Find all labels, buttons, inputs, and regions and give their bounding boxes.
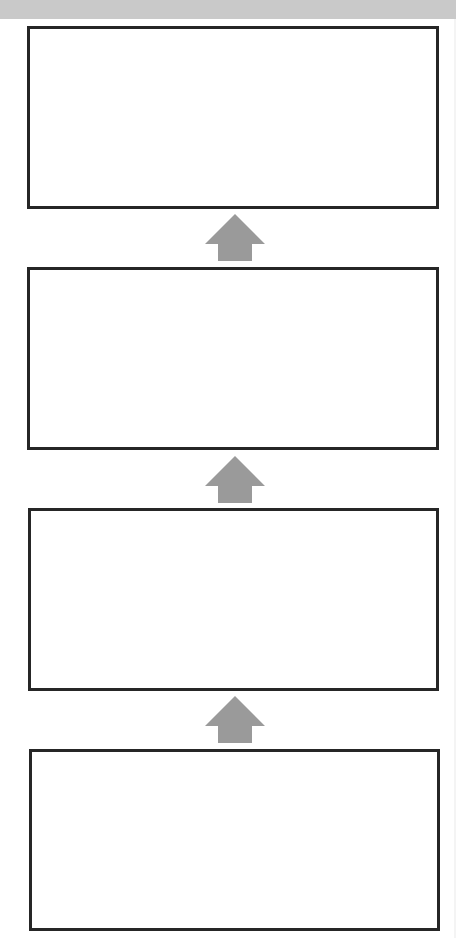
flow-box-4 xyxy=(29,749,440,931)
up-arrow-icon xyxy=(205,696,265,743)
flow-box-2 xyxy=(27,267,439,450)
flow-box-1 xyxy=(27,26,439,209)
up-arrow-icon xyxy=(205,214,265,261)
flow-box-3 xyxy=(28,508,439,691)
top-banner xyxy=(0,0,456,19)
up-arrow-icon xyxy=(205,456,265,503)
